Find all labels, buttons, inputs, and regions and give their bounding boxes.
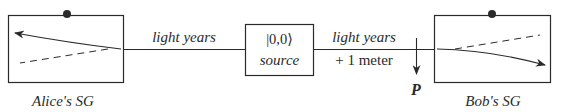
right-distance-label: light years	[332, 29, 396, 45]
bob-deflected-path-arrow	[437, 49, 545, 65]
source: |0,0⟩ source	[246, 25, 314, 76]
p-label: P	[410, 81, 421, 98]
source-label: source	[260, 52, 300, 68]
bob-sg-box	[435, 16, 551, 83]
alice-sg-apparatus	[9, 10, 124, 83]
alice-sg-label: Alice's SG	[31, 93, 94, 109]
measurement-point: P	[410, 38, 421, 98]
alice-sg-knob-icon	[63, 10, 71, 18]
alice-undeflected-path-dashed	[20, 49, 108, 63]
bob-sg-apparatus	[435, 10, 551, 83]
alice-deflected-path-arrow	[15, 33, 121, 49]
left-distance-label: light years	[152, 29, 216, 45]
bob-sg-knob-icon	[488, 10, 496, 18]
bob-sg-label: Bob's SG	[465, 93, 520, 109]
stern-gerlach-diagram: light years |0,0⟩ source light years + 1…	[0, 0, 561, 112]
extra-distance-text: + 1 meter	[335, 52, 393, 68]
bob-undeflected-path-dashed	[455, 35, 540, 49]
source-state-label: |0,0⟩	[266, 31, 293, 47]
right-extra-distance-label: + 1 meter	[335, 52, 393, 68]
